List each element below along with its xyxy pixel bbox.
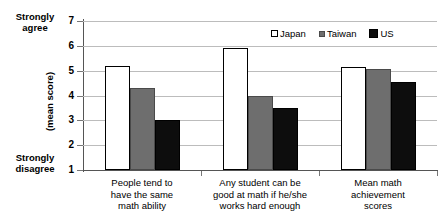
legend-swatch-us-icon	[369, 29, 378, 38]
y-tick-mark	[77, 46, 83, 47]
y-tick-label: 1	[60, 165, 74, 175]
x-axis-category-label: People tend tohave the samemath ability	[80, 177, 204, 212]
category-label-line2: good at math if he/she	[198, 189, 322, 201]
y-tick-mark	[77, 170, 83, 171]
x-tick-mark	[319, 171, 320, 176]
x-axis-category-label: Mean mathachievementscores	[316, 177, 440, 212]
y-tick-label: 4	[60, 91, 74, 101]
legend-label: Taiwan	[327, 28, 357, 39]
bar-japan-group1	[105, 66, 130, 170]
category-label-line1: People tend to	[80, 177, 204, 189]
bar-chart: Strongly agree Strongly disagree (mean s…	[0, 0, 444, 223]
category-label-line3: works hard enough	[198, 200, 322, 212]
bar-us-group3	[391, 82, 416, 170]
y-tick-label: 7	[60, 16, 74, 26]
x-tick-mark	[201, 171, 202, 176]
bar-us-group1	[155, 120, 180, 170]
y-tick-mark	[77, 145, 83, 146]
category-label-line2: have the same	[80, 189, 204, 201]
y-tick-mark	[77, 71, 83, 72]
category-label-line1: Any student can be	[198, 177, 322, 189]
legend-item-us: US	[369, 28, 393, 39]
bar-taiwan-group1	[130, 88, 155, 170]
x-tick-mark	[437, 171, 438, 176]
x-axis-line	[83, 170, 438, 171]
y-tick-mark	[77, 21, 83, 22]
legend-label: US	[380, 28, 393, 39]
y-tick-label: 6	[60, 41, 74, 51]
gridline	[83, 21, 437, 22]
y-axis-title: (mean score)	[44, 47, 55, 157]
legend-swatch-taiwan-icon	[319, 31, 325, 37]
legend-item-taiwan: Taiwan	[319, 28, 357, 39]
category-label-line3: math ability	[80, 200, 204, 212]
legend-swatch-japan-icon	[271, 30, 278, 37]
scale-anchor-low-line1: Strongly	[0, 152, 70, 163]
x-axis-category-label: Any student can begood at math if he/she…	[198, 177, 322, 212]
bar-taiwan-group2	[248, 96, 273, 171]
plot-area	[83, 21, 437, 170]
y-tick-label: 2	[60, 140, 74, 150]
legend: JapanTaiwanUS	[268, 26, 397, 41]
bar-japan-group2	[223, 48, 248, 170]
category-label-line3: scores	[316, 200, 440, 212]
y-tick-mark	[77, 96, 83, 97]
legend-item-japan: Japan	[271, 28, 306, 39]
bar-taiwan-group3	[366, 69, 391, 170]
y-tick-mark	[77, 120, 83, 121]
y-tick-label: 3	[60, 115, 74, 125]
legend-label: Japan	[280, 28, 306, 39]
category-label-line1: Mean math	[316, 177, 440, 189]
gridline	[83, 46, 437, 47]
bar-us-group2	[273, 108, 298, 170]
bar-japan-group3	[341, 67, 366, 170]
category-label-line2: achievement	[316, 189, 440, 201]
y-tick-label: 5	[60, 66, 74, 76]
